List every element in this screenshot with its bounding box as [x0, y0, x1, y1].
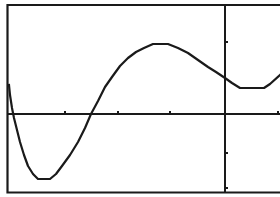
- graph-window: [0, 0, 280, 197]
- graph-background: [0, 0, 280, 197]
